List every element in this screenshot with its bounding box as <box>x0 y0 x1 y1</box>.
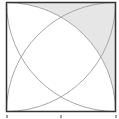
shaded-region <box>7 3 116 112</box>
arcs-in-square-diagram <box>0 0 119 119</box>
